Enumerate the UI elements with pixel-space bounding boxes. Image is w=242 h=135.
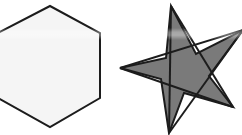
shapes-canvas bbox=[0, 0, 242, 135]
shapes-svg bbox=[0, 0, 242, 135]
